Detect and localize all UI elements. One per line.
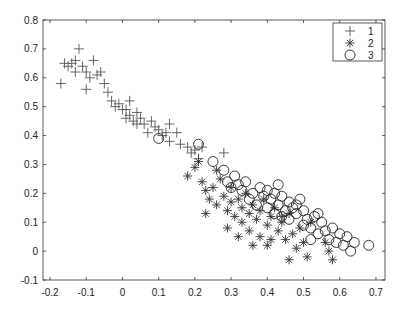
data-point bbox=[292, 244, 301, 253]
data-point bbox=[237, 218, 246, 227]
legend: 123 bbox=[333, 23, 382, 61]
data-point bbox=[263, 241, 272, 250]
y-tick-label: -0.1 bbox=[21, 275, 39, 286]
data-point bbox=[285, 255, 294, 264]
data-point bbox=[324, 247, 333, 256]
y-tick-label: 0.4 bbox=[24, 130, 38, 141]
legend-box bbox=[333, 23, 382, 61]
data-point bbox=[303, 252, 312, 261]
x-tick-label: 0.3 bbox=[224, 287, 238, 298]
x-tick-label: 0 bbox=[120, 287, 126, 298]
data-point bbox=[198, 177, 207, 186]
data-point bbox=[234, 195, 243, 204]
data-point bbox=[205, 195, 214, 204]
data-point bbox=[328, 255, 337, 264]
x-tick-label: 0.5 bbox=[297, 287, 311, 298]
data-point bbox=[245, 209, 254, 218]
data-point bbox=[263, 221, 272, 230]
data-point bbox=[194, 157, 203, 166]
data-point bbox=[234, 232, 243, 241]
data-point bbox=[274, 226, 283, 235]
x-tick-label: -0.2 bbox=[41, 287, 59, 298]
y-tick-label: 0.8 bbox=[24, 15, 38, 26]
y-tick-label: 0.5 bbox=[24, 101, 38, 112]
x-tick-label: -0.1 bbox=[78, 287, 96, 298]
y-tick-label: 0.3 bbox=[24, 159, 38, 170]
y-tick-label: 0.6 bbox=[24, 72, 38, 83]
x-tick-label: 0.4 bbox=[260, 287, 274, 298]
data-point bbox=[219, 192, 228, 201]
y-tick-label: 0.1 bbox=[24, 217, 38, 228]
legend-label: 3 bbox=[368, 50, 374, 61]
data-point bbox=[201, 209, 210, 218]
y-tick-label: 0 bbox=[32, 246, 38, 257]
data-point bbox=[256, 232, 265, 241]
data-point bbox=[212, 200, 221, 209]
data-point bbox=[190, 163, 199, 172]
data-point bbox=[266, 235, 275, 244]
data-point bbox=[223, 224, 232, 233]
data-point bbox=[252, 215, 261, 224]
data-point bbox=[281, 235, 290, 244]
x-tick-label: 0.1 bbox=[152, 287, 166, 298]
legend-marker-asterisk-icon bbox=[346, 39, 355, 48]
data-point bbox=[248, 241, 257, 250]
data-point bbox=[223, 206, 232, 215]
data-point bbox=[245, 226, 254, 235]
data-point bbox=[183, 172, 192, 181]
data-point bbox=[288, 229, 297, 238]
scatter-chart: -0.2-0.100.10.20.30.40.50.60.7 -0.100.10… bbox=[0, 0, 403, 313]
y-tick-label: 0.7 bbox=[24, 43, 38, 54]
data-point bbox=[208, 183, 217, 192]
x-tick-label: 0.7 bbox=[369, 287, 383, 298]
legend-label: 2 bbox=[368, 38, 374, 49]
x-tick-label: 0.2 bbox=[188, 287, 202, 298]
data-point bbox=[230, 212, 239, 221]
legend-label: 1 bbox=[368, 26, 374, 37]
y-tick-label: 0.2 bbox=[24, 188, 38, 199]
x-tick-label: 0.6 bbox=[333, 287, 347, 298]
data-point bbox=[237, 203, 246, 212]
